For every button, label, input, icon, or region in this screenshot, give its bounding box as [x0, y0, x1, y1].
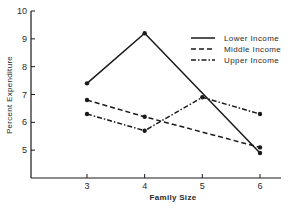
legend-label: Middle Income: [224, 45, 281, 54]
data-point-marker: [85, 81, 89, 85]
x-tick-label: 6: [257, 181, 262, 191]
y-tick-label: 5: [22, 145, 27, 155]
data-point-marker: [258, 112, 262, 116]
y-tick-label: 9: [22, 34, 27, 44]
data-point-marker: [85, 98, 89, 102]
x-tick-label: 4: [142, 181, 147, 191]
data-point-marker: [258, 151, 262, 155]
legend: Lower IncomeMiddle IncomeUpper Income: [191, 34, 281, 65]
data-point-marker: [142, 128, 146, 132]
x-tick-label: 5: [200, 181, 205, 191]
y-tick-label: 6: [22, 117, 27, 127]
legend-label: Lower Income: [224, 34, 279, 43]
x-tick-label: 3: [84, 181, 89, 191]
data-point-marker: [85, 112, 89, 116]
y-tick-label: 8: [22, 62, 27, 72]
y-tick-label: 10: [17, 6, 27, 16]
line-chart: 56789103456 Lower IncomeMiddle IncomeUpp…: [0, 0, 297, 209]
data-point-marker: [142, 115, 146, 119]
y-axis-label: Percent Expenditure: [5, 56, 14, 134]
x-axis-label: Family Size: [150, 193, 197, 202]
legend-label: Upper Income: [224, 56, 279, 65]
data-point-marker: [258, 145, 262, 149]
data-point-marker: [142, 31, 146, 35]
y-tick-label: 7: [22, 90, 27, 100]
data-point-marker: [200, 95, 204, 99]
